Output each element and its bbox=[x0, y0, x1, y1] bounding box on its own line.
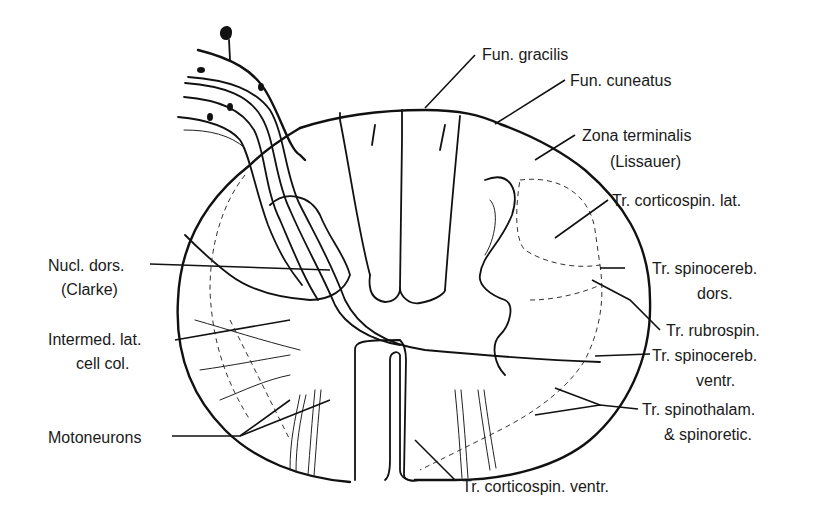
label-tr-spinocereb-ventr-2: ventr. bbox=[696, 372, 735, 389]
label-motoneurons: Motoneurons bbox=[48, 429, 141, 446]
label-tr-spinocereb-dors-2: dors. bbox=[697, 285, 733, 302]
label-tr-spinocereb-ventr: Tr. spinocereb. bbox=[652, 347, 757, 364]
label-tr-spinothalam: Tr. spinothalam. bbox=[642, 401, 755, 418]
gray-matter-left bbox=[185, 175, 350, 440]
label-nucl-dors: Nucl. dors. bbox=[48, 257, 124, 274]
label-tr-spinocereb-dors: Tr. spinocereb. bbox=[652, 260, 757, 277]
label-lissauer: (Lissauer) bbox=[610, 153, 681, 170]
label-zona-terminalis: Zona terminalis bbox=[582, 127, 691, 144]
label-clarke: (Clarke) bbox=[61, 281, 118, 298]
label-spinoretic: & spinoretic. bbox=[664, 426, 752, 443]
label-cell-col: cell col. bbox=[76, 355, 129, 372]
label-intermed-lat: Intermed. lat. bbox=[48, 331, 141, 348]
dorsal-columns bbox=[340, 110, 460, 303]
label-fun-cuneatus: Fun. cuneatus bbox=[570, 72, 671, 89]
spinal-cord-diagram: Fun. gracilis Fun. cuneatus Zona termina… bbox=[0, 0, 835, 522]
label-fun-gracilis: Fun. gracilis bbox=[482, 46, 568, 63]
diagram-canvas: Fun. gracilis Fun. cuneatus Zona termina… bbox=[0, 0, 835, 522]
labels: Fun. gracilis Fun. cuneatus Zona termina… bbox=[48, 46, 760, 495]
label-tr-corticospin-lat: Tr. corticospin. lat. bbox=[612, 192, 741, 209]
label-tr-rubrospin: Tr. rubrospin. bbox=[666, 322, 760, 339]
dorsal-root bbox=[178, 26, 600, 362]
label-tr-corticospin-ventr: Tr. corticospin. ventr. bbox=[462, 478, 609, 495]
gray-matter-right bbox=[420, 177, 602, 470]
cord-outline bbox=[178, 110, 650, 482]
